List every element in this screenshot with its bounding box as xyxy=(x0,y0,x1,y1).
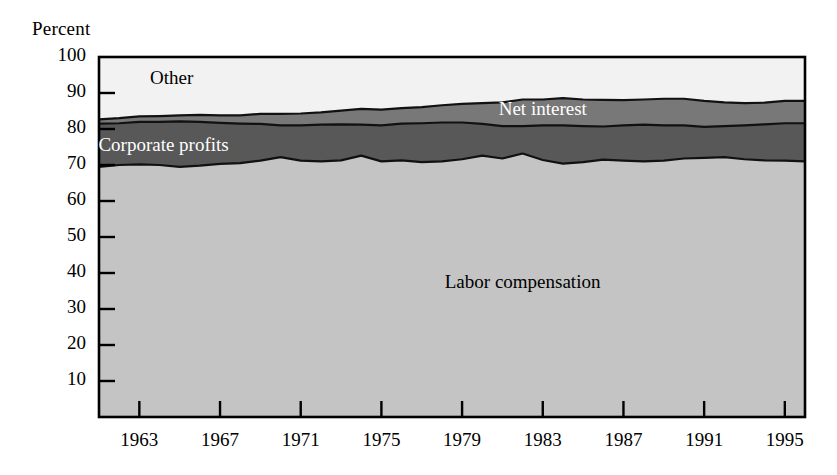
y-tick-label-90: 90 xyxy=(30,80,86,102)
chart-plot-area xyxy=(0,0,837,475)
y-tick-label-10: 10 xyxy=(30,368,86,390)
y-tick-label-60: 60 xyxy=(30,188,86,210)
x-tick-label-1987: 1987 xyxy=(583,429,663,451)
chart-figure: Percent 100908070605040302010 1963196719… xyxy=(0,0,837,475)
y-tick-label-20: 20 xyxy=(30,332,86,354)
x-tick-label-1967: 1967 xyxy=(180,429,260,451)
x-tick-label-1971: 1971 xyxy=(261,429,341,451)
x-tick-label-1991: 1991 xyxy=(664,429,744,451)
y-tick-label-40: 40 xyxy=(30,260,86,282)
y-tick-label-80: 80 xyxy=(30,116,86,138)
x-tick-label-1975: 1975 xyxy=(341,429,421,451)
x-tick-label-1963: 1963 xyxy=(99,429,179,451)
series-label-net-interest: Net interest xyxy=(499,98,587,120)
x-tick-label-1979: 1979 xyxy=(422,429,502,451)
y-tick-label-50: 50 xyxy=(30,224,86,246)
series-label-labor-compensation: Labor compensation xyxy=(445,271,601,293)
y-tick-label-70: 70 xyxy=(30,152,86,174)
x-tick-label-1983: 1983 xyxy=(503,429,583,451)
series-label-other: Other xyxy=(150,67,193,89)
y-tick-label-30: 30 xyxy=(30,296,86,318)
y-tick-label-100: 100 xyxy=(30,44,86,66)
x-tick-label-1995: 1995 xyxy=(745,429,825,451)
series-label-corporate-profits: Corporate profits xyxy=(98,134,228,156)
